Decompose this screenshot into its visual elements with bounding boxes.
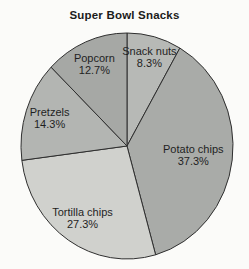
slice-label-pretzels: Pretzels14.3% [30,106,70,130]
pie-svg: Snack nuts8.3%Potato chips37.3%Tortilla … [0,0,249,269]
pie-chart-figure: Super Bowl Snacks Snack nuts8.3%Potato c… [0,0,249,269]
slice-label-popcorn: Popcorn12.7% [74,52,115,76]
